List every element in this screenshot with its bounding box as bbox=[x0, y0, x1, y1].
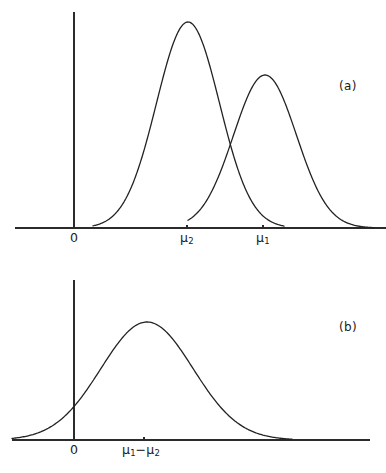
panel-a-tick-label-origin: 0 bbox=[70, 232, 78, 245]
curve-distribution-mu2 bbox=[93, 22, 284, 226]
panel-b-caption: (b) bbox=[339, 321, 357, 333]
curve-distribution-difference bbox=[12, 322, 292, 439]
statistics-figure: 0μ2μ1(a)0μ1−μ2(b) bbox=[0, 0, 386, 473]
panel-a-caption: (a) bbox=[339, 80, 357, 92]
curve-distribution-mu1 bbox=[188, 75, 374, 228]
axes-layer bbox=[12, 12, 386, 440]
panel-a-tick-label-mu2: μ2 bbox=[180, 232, 194, 245]
curves-layer bbox=[12, 22, 374, 439]
panel-b-tick-label-origin: 0 bbox=[70, 444, 78, 457]
panel-a-tick-label-mu1: μ1 bbox=[256, 232, 270, 245]
panel-b-tick-label-mu1-minus-mu2: μ1−μ2 bbox=[122, 444, 160, 457]
